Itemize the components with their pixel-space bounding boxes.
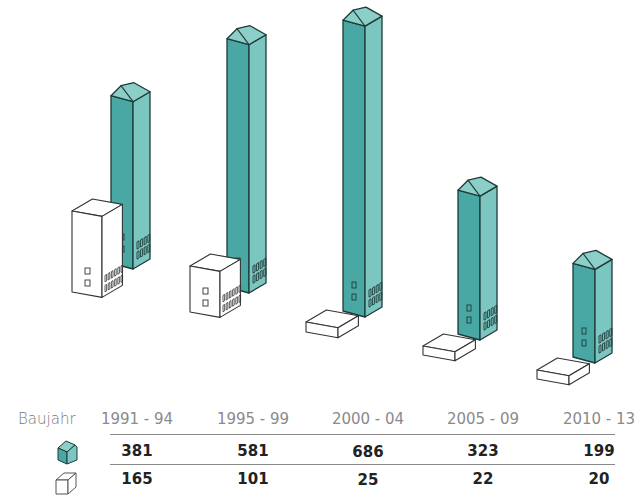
- teal-value-3: 686: [328, 443, 408, 461]
- teal-tower-front: [227, 39, 249, 293]
- white-value-5: 20: [559, 470, 639, 488]
- white-value-3: 25: [328, 471, 408, 489]
- teal-tower-front: [458, 190, 480, 340]
- teal-value-1: 381: [97, 442, 177, 460]
- white-value-2: 101: [213, 470, 293, 488]
- column-header-3: 2000 - 04: [318, 410, 418, 428]
- baujahr-label: Baujahr: [18, 410, 76, 428]
- white-value-4: 22: [443, 470, 523, 488]
- column-header-5: 2010 - 13: [549, 410, 640, 428]
- building-chart: [0, 0, 640, 400]
- divider: [110, 464, 615, 465]
- teal-tower-front: [343, 20, 365, 317]
- data-table: Baujahr 1991 - 94 1995 - 99 2000 - 04 20…: [0, 400, 640, 498]
- teal-tower-front: [573, 263, 595, 363]
- teal-tower-side: [365, 16, 382, 317]
- white-box-2-front: [190, 266, 220, 317]
- white-box-1-front: [72, 211, 102, 297]
- teal-value-2: 581: [213, 442, 293, 460]
- column-header-1: 1991 - 94: [87, 410, 187, 428]
- teal-house-icon: [55, 438, 81, 466]
- column-header-4: 2005 - 09: [433, 410, 533, 428]
- teal-value-4: 323: [443, 442, 523, 460]
- teal-tower-side: [249, 35, 266, 293]
- white-value-1: 165: [97, 470, 177, 488]
- teal-value-5: 199: [559, 442, 639, 460]
- column-header-2: 1995 - 99: [203, 410, 303, 428]
- teal-tower-side: [595, 259, 612, 363]
- white-box-icon: [54, 470, 80, 496]
- divider: [110, 434, 615, 435]
